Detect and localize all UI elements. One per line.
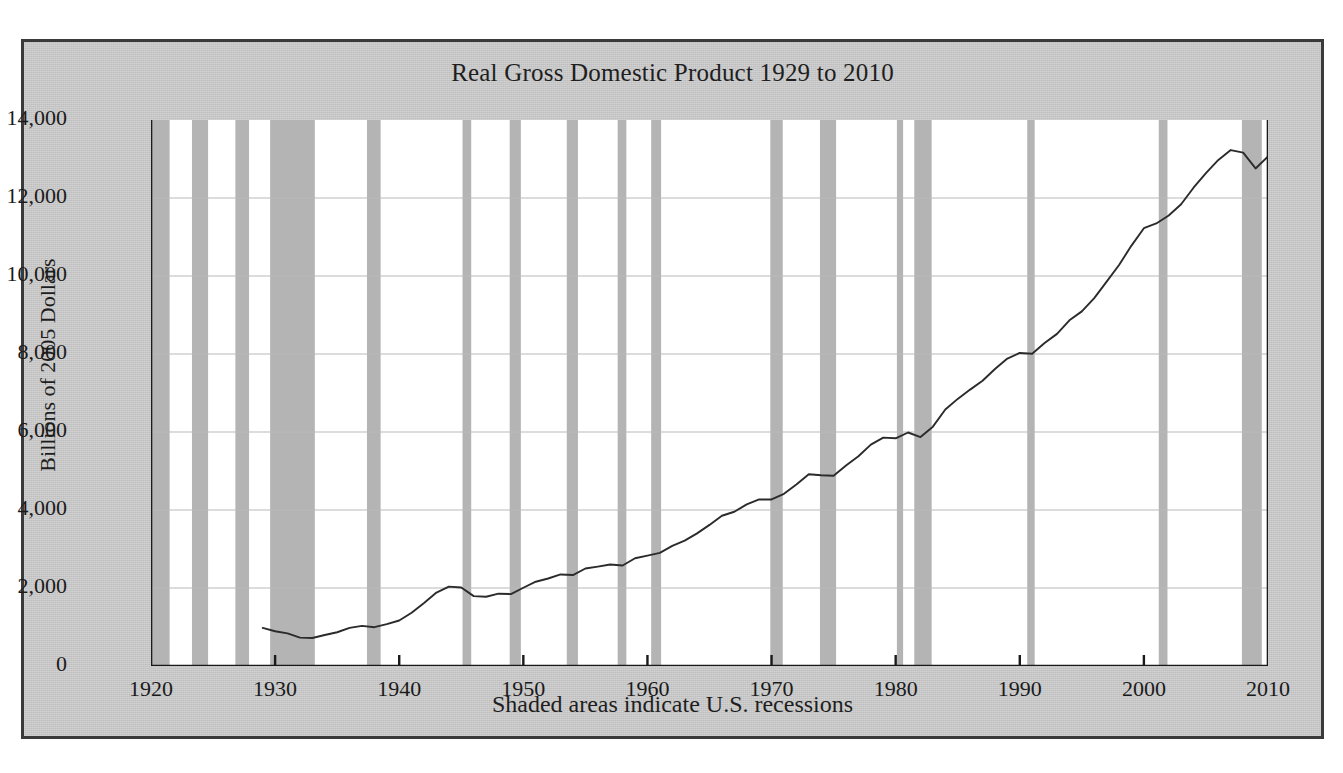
recession-band — [151, 120, 170, 666]
y-tick-label: 6,000 — [18, 417, 68, 443]
y-tick-label: 0 — [56, 651, 67, 677]
y-tick-label: 8,000 — [18, 339, 68, 365]
x-axis-caption: Shaded areas indicate U.S. recessions — [24, 691, 1321, 718]
y-tick-label: 4,000 — [18, 495, 68, 521]
recession-band — [270, 120, 315, 666]
y-tick-label: 2,000 — [18, 573, 68, 599]
recession-band — [1159, 120, 1168, 666]
recession-band — [1027, 120, 1034, 666]
recession-band — [770, 120, 782, 666]
chart-title: Real Gross Domestic Product 1929 to 2010 — [24, 59, 1321, 87]
recession-band — [567, 120, 578, 666]
y-tick-label: 12,000 — [7, 183, 68, 209]
gdp-line-chart — [151, 120, 1268, 666]
recession-band — [820, 120, 836, 666]
recession-band — [463, 120, 472, 666]
plot-background — [151, 120, 1268, 666]
y-tick-label: 10,000 — [7, 261, 68, 287]
recession-band — [651, 120, 661, 666]
y-tick-label: 14,000 — [7, 105, 68, 131]
recession-band — [367, 120, 381, 666]
recession-band — [618, 120, 627, 666]
recession-band — [897, 120, 903, 666]
recession-band — [235, 120, 249, 666]
recession-band — [510, 120, 521, 666]
recession-band — [914, 120, 931, 666]
figure-frame: Real Gross Domestic Product 1929 to 2010… — [21, 39, 1324, 739]
recession-band — [1242, 120, 1262, 666]
recession-band — [192, 120, 208, 666]
plot-area — [151, 120, 1268, 666]
